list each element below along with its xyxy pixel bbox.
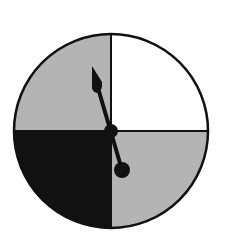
region-bottom-left (14, 131, 111, 228)
spinner-svg (0, 0, 228, 240)
region-top-right (111, 34, 208, 131)
region-bottom-right (111, 131, 208, 228)
spinner-diagram (0, 0, 228, 240)
